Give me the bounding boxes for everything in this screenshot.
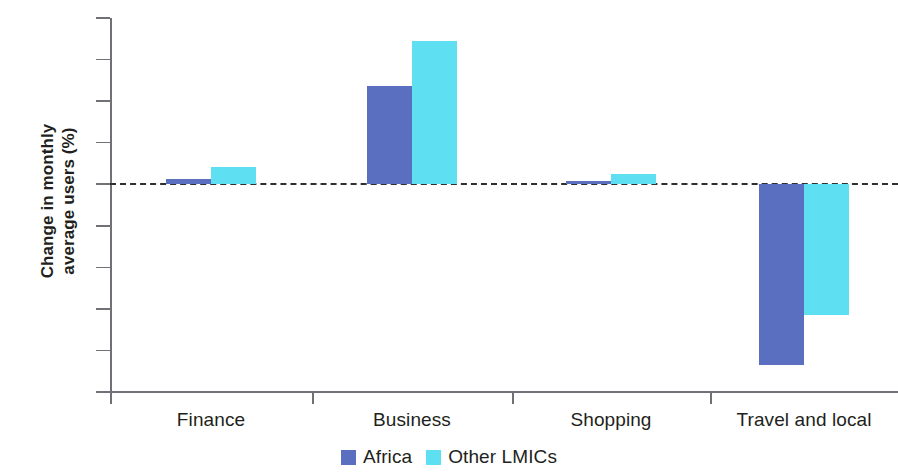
legend-swatch-icon	[426, 450, 441, 465]
bar-africa-travel-and-local	[759, 184, 804, 365]
x-axis-tick	[312, 391, 314, 404]
y-axis-tick	[96, 350, 110, 352]
x-axis-tick	[710, 391, 712, 404]
y-axis-tick	[96, 183, 110, 185]
x-axis-origin-tick	[110, 385, 112, 404]
bar-other-lmics-shopping	[611, 174, 656, 184]
y-axis-title: Change in monthly average users (%)	[35, 51, 81, 351]
x-axis-label-business: Business	[373, 409, 451, 431]
legend-swatch-icon	[341, 450, 356, 465]
x-axis-line	[110, 391, 898, 393]
y-axis-tick	[96, 267, 110, 269]
y-axis-line	[110, 18, 112, 393]
y-axis-title-line-1: Change in monthly	[37, 124, 58, 279]
bar-africa-shopping	[566, 181, 611, 184]
bar-other-lmics-finance	[211, 167, 256, 185]
legend-item-africa[interactable]: Africa	[341, 446, 412, 468]
y-axis-tick	[96, 59, 110, 61]
legend-label: Africa	[363, 446, 412, 468]
legend: AfricaOther LMICs	[0, 446, 898, 468]
y-axis-tick	[96, 391, 110, 393]
x-axis-label-travel-and-local: Travel and local	[736, 409, 871, 431]
bar-other-lmics-business	[412, 41, 457, 184]
x-axis-label-shopping: Shopping	[570, 409, 651, 431]
bar-africa-finance	[166, 179, 211, 184]
x-axis-tick	[512, 391, 514, 404]
bar-chart: Change in monthly average users (%) 8642…	[0, 0, 898, 474]
bar-africa-business	[367, 86, 412, 185]
y-axis-title-line-2: average users (%)	[58, 127, 79, 274]
legend-label: Other LMICs	[448, 446, 557, 468]
y-axis-tick	[96, 17, 110, 19]
y-axis-tick	[96, 225, 110, 227]
x-axis-label-finance: Finance	[177, 409, 245, 431]
y-axis-tick	[96, 100, 110, 102]
bar-other-lmics-travel-and-local	[804, 184, 849, 315]
y-axis-tick	[96, 142, 110, 144]
legend-item-other-lmics[interactable]: Other LMICs	[426, 446, 557, 468]
y-axis-tick	[96, 308, 110, 310]
